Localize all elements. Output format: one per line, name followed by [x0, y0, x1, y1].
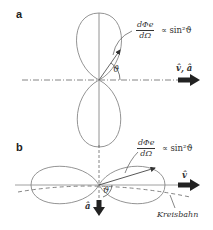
- thick-arrow-shaft: [178, 183, 192, 188]
- arrow-head-icon: [190, 74, 200, 86]
- a-arrow-shaft: [97, 200, 102, 208]
- arrow-head-icon: [190, 179, 200, 191]
- angle-b-label: ϑ: [103, 185, 109, 195]
- orbit-leader: [170, 195, 175, 208]
- formula-a-denominator: dΩ: [139, 31, 151, 41]
- a-arrow-head-icon: [93, 207, 105, 216]
- direction-arrow: [99, 168, 155, 185]
- panel-a-label: a: [16, 8, 22, 20]
- axis-b-v-label: v̂: [182, 170, 187, 180]
- formula-b-numerator: dΦe: [137, 138, 155, 149]
- thick-arrow-shaft: [178, 78, 192, 83]
- axis-a-label: v̂, â: [176, 63, 192, 73]
- formula-a-fraction: dΦe dΩ: [136, 20, 154, 41]
- formula-a-rhs: ∝ sin²ϑ: [161, 25, 192, 35]
- orbit-label: Kreisbahn: [157, 210, 198, 219]
- panel-b-label: b: [16, 141, 23, 153]
- leader-line: [113, 31, 132, 55]
- angle-a-label: ϑ: [113, 64, 119, 74]
- formula-b-fraction: dΦe dΩ: [137, 138, 155, 159]
- formula-b-denominator: dΩ: [140, 149, 152, 159]
- panel-b-graphic: [15, 145, 200, 216]
- formula-a-numerator: dΦe: [136, 20, 154, 31]
- formula-b-rhs: ∝ sin²ϑ: [162, 143, 193, 153]
- axis-b-a-label: â: [85, 201, 91, 211]
